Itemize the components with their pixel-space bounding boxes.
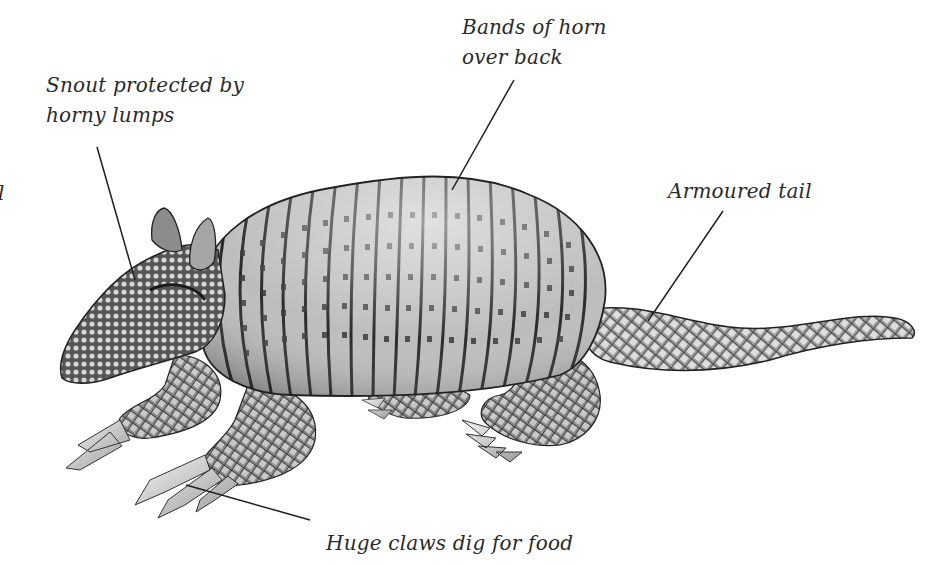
label-tail-line-1: Armoured tail <box>668 176 812 206</box>
leader-line-claws <box>186 485 310 520</box>
leader-line-bands <box>452 80 514 190</box>
armadillo-diagram: Snout protected by horny lumps Bands of … <box>0 0 939 565</box>
label-bands: Bands of horn over back <box>462 12 607 72</box>
label-snout-line-2: horny lumps <box>46 100 244 130</box>
label-claws-line-1: Huge claws dig for food <box>326 528 573 558</box>
label-tail: Armoured tail <box>668 176 812 206</box>
label-snout-line-1: Snout protected by <box>46 70 244 100</box>
label-bands-line-2: over back <box>462 42 607 72</box>
label-clipped: l <box>0 178 5 208</box>
label-claws: Huge claws dig for food <box>326 528 573 558</box>
label-snout: Snout protected by horny lumps <box>46 70 244 130</box>
label-bands-line-1: Bands of horn <box>462 12 607 42</box>
leader-line-snout <box>97 147 135 280</box>
leader-line-tail <box>648 211 723 321</box>
label-clipped-line-1: l <box>0 178 5 208</box>
